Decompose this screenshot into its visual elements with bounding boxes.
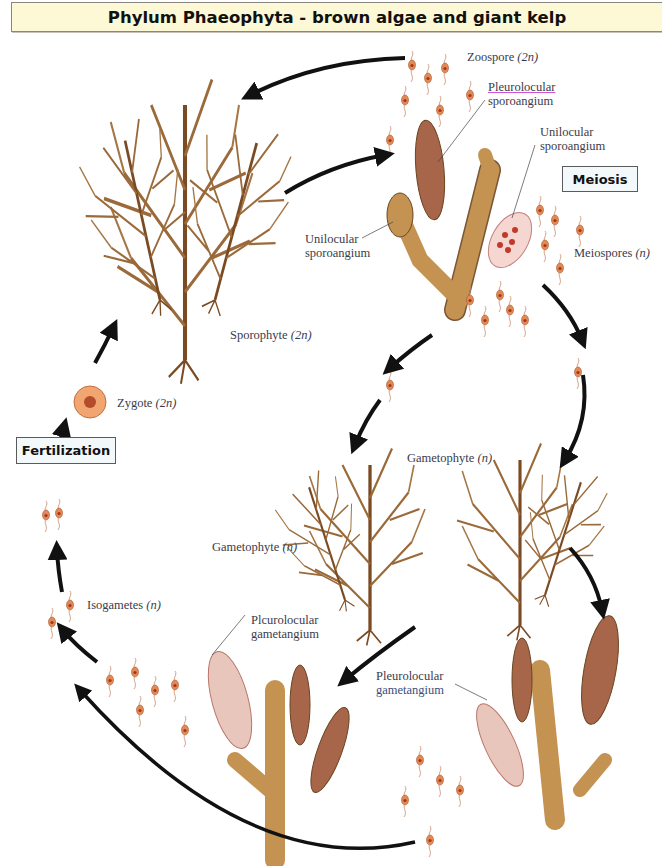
ploidy: (n) — [146, 598, 161, 612]
box-label: Meiosis — [572, 172, 627, 187]
ploidy: (n) — [635, 246, 650, 260]
ploidy: (n) — [477, 451, 492, 465]
label-text: Sporophyte — [230, 328, 288, 342]
label-text: Gametophyte — [212, 540, 279, 554]
meiosis-box: Meiosis — [562, 166, 638, 192]
label-pleurolocular-sporoangium: Pleurolocular sporoangium — [488, 80, 555, 108]
gametangia-filament-left-illustration — [200, 647, 357, 860]
label-gametophyte-left: Gametophyte (n) — [212, 540, 297, 554]
label-sporophyte: Sporophyte (2n) — [230, 328, 312, 342]
box-label: Fertilization — [22, 443, 110, 458]
sporangia-filament-illustration — [387, 119, 541, 310]
label-text: Zygote — [117, 396, 152, 410]
label-pleurolocular-gametangium-right: Pleurolocular gametangium — [376, 669, 444, 697]
label-text: Gametophyte — [407, 451, 474, 465]
label-line2: gametangium — [376, 683, 444, 697]
label-unilocular-sporoangium-right: Unilocular sporoangium — [540, 125, 605, 153]
label-line1: Plcurolocular — [251, 613, 319, 627]
label-line2: sporoangium — [540, 139, 605, 153]
zygote-illustration — [74, 386, 106, 418]
fertilization-box: Fertilization — [16, 437, 116, 464]
label-line2: sporoangium — [488, 94, 555, 108]
label-zoospore: Zoospore (2n) — [467, 50, 538, 64]
gametophyte-right-illustration — [457, 444, 573, 641]
label-line2: sporoangium — [305, 246, 370, 260]
label-pleurolocular-gametangium-left: Plcurolocular gametangium — [251, 613, 319, 641]
label-unilocular-sporoangium-left: Unilocular sporoangium — [305, 232, 370, 260]
ploidy: (2n) — [517, 50, 538, 64]
ploidy: (n) — [282, 540, 297, 554]
label-line1: Pleurolocular — [488, 80, 555, 94]
label-line2: gametangium — [251, 627, 319, 641]
gametangia-filament-right-illustration — [467, 613, 625, 820]
label-zygote: Zygote (2n) — [117, 396, 176, 410]
label-text: Isogametes — [87, 598, 143, 612]
label-gametophyte-right: Gametophyte (n) — [407, 451, 492, 465]
ploidy: (2n) — [156, 396, 177, 410]
label-line1: Pleurolocular — [376, 669, 444, 683]
label-line1: Unilocular — [305, 232, 370, 246]
label-text: Zoospore — [467, 50, 514, 64]
ploidy: (2n) — [291, 328, 312, 342]
label-meiospores: Meiospores (n) — [574, 246, 650, 260]
label-isogametes: Isogametes (n) — [87, 598, 161, 612]
gametophyte-left-illustration — [304, 449, 425, 646]
label-line1: Unilocular — [540, 125, 605, 139]
label-text: Meiospores — [574, 246, 632, 260]
